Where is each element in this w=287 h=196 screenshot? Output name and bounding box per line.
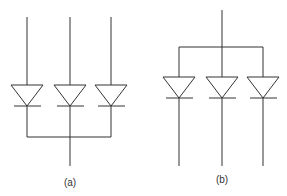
panel-a-diode-3 [95, 85, 127, 106]
panel-a-circuit [11, 17, 127, 166]
diagram-canvas [0, 0, 287, 196]
panel-b-diode-2 [206, 77, 238, 98]
panel-b-label: (b) [216, 174, 228, 185]
panel-a-diode-2 [54, 85, 86, 106]
panel-a-diode-1 [11, 85, 43, 106]
panel-b-circuit [163, 10, 279, 166]
panel-b-diode-3 [247, 77, 279, 98]
panel-a-label: (a) [64, 177, 76, 188]
panel-b-diode-1 [163, 77, 195, 98]
